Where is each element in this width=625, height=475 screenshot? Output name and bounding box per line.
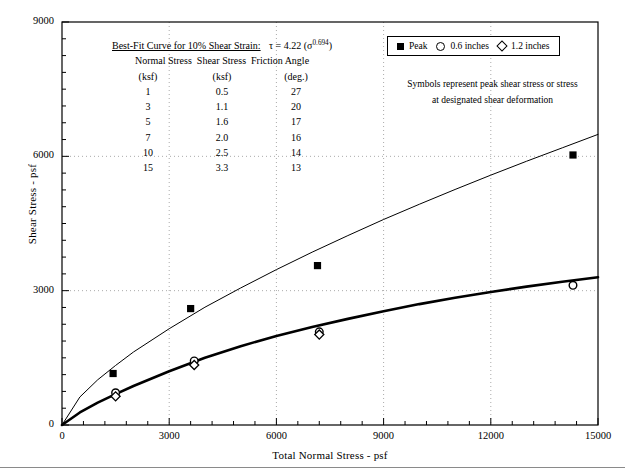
footer-divider <box>0 467 625 468</box>
y-tick-label: 9000 <box>10 15 54 26</box>
table-row: 153.313 <box>111 160 333 175</box>
legend-entry: 1.2 inches <box>498 41 550 51</box>
header-normal-stress: Normal Stress <box>135 55 192 66</box>
x-tick-label: 9000 <box>354 430 414 441</box>
table-cell: 1.1 <box>185 100 259 115</box>
table-cell: 16 <box>259 130 333 145</box>
table-cell: 14 <box>259 145 333 160</box>
table-cell: 13 <box>259 160 333 175</box>
table-cell: 1.6 <box>185 115 259 130</box>
table-cell: 0.5 <box>185 85 259 100</box>
table-cell: 2.0 <box>185 130 259 145</box>
table-row: 10.527 <box>111 85 333 100</box>
x-axis-title: Total Normal Stress - psf <box>62 449 598 461</box>
table-row: 72.016 <box>111 130 333 145</box>
y-tick-label: 0 <box>10 418 54 429</box>
table-row: 102.514 <box>111 145 333 160</box>
annotation-column-headers: Normal Stress Shear Stress Friction Angl… <box>72 56 372 67</box>
annotation-table: (ksf)(ksf)(deg.)10.52731.12051.61772.016… <box>111 69 333 175</box>
circle-marker-icon <box>436 42 445 51</box>
equation-exponent: 0.694 <box>312 39 328 47</box>
data-point-peak <box>569 151 576 158</box>
diamond-marker-icon <box>496 40 507 51</box>
table-cell: 3.3 <box>185 160 259 175</box>
table-cell: 5 <box>111 115 185 130</box>
table-cell: (ksf) <box>185 69 259 84</box>
y-tick-label: 3000 <box>10 284 54 295</box>
square-marker-icon <box>397 43 404 50</box>
legend-note: Symbols represent peak shear stress or s… <box>385 76 600 108</box>
table-row: 31.120 <box>111 100 333 115</box>
x-tick-label: 0 <box>32 430 92 441</box>
legend-entry: 0.6 inches <box>436 41 489 51</box>
table-cell: 15 <box>111 160 185 175</box>
best-fit-annotation: Best-Fit Curve for 10% Shear Strain: τ =… <box>72 40 372 176</box>
chart-legend: Peak0.6 inches1.2 inches <box>387 36 560 56</box>
designated-deformation-curve <box>62 277 598 425</box>
header-friction-angle: Friction Angle <box>251 55 309 66</box>
table-cell: 17 <box>259 115 333 130</box>
data-point-peak <box>314 262 321 269</box>
header-shear-stress: Shear Stress <box>197 55 246 66</box>
annotation-equation: τ = 4.22 (σ0.694) <box>269 40 332 51</box>
annotation-title-line: Best-Fit Curve for 10% Shear Strain: τ =… <box>72 40 372 52</box>
legend-label: 0.6 inches <box>450 41 489 51</box>
data-point-peak <box>187 305 194 312</box>
legend-note-line-1: Symbols represent peak shear stress or s… <box>385 76 600 92</box>
table-row-units: (ksf)(ksf)(deg.) <box>111 69 333 84</box>
table-cell: (ksf) <box>111 69 185 84</box>
table-cell: (deg.) <box>259 69 333 84</box>
table-cell: 2.5 <box>185 145 259 160</box>
chart-page: Shear Stress - psf Total Normal Stress -… <box>0 0 625 475</box>
legend-label: Peak <box>409 41 427 51</box>
x-tick-label: 12000 <box>461 430 521 441</box>
x-tick-label: 3000 <box>139 430 199 441</box>
data-point-peak <box>109 370 116 377</box>
equation-suffix: ) <box>329 40 332 51</box>
table-cell: 7 <box>111 130 185 145</box>
annotation-title: Best-Fit Curve for 10% Shear Strain: <box>112 40 261 51</box>
table-cell: 3 <box>111 100 185 115</box>
table-cell: 20 <box>259 100 333 115</box>
table-cell: 10 <box>111 145 185 160</box>
data-point-0-6-inches <box>569 281 577 289</box>
table-cell: 1 <box>111 85 185 100</box>
legend-note-line-2: at designated shear deformation <box>385 92 600 108</box>
x-tick-label: 15000 <box>568 430 625 441</box>
legend-entry: Peak <box>397 41 427 51</box>
legend-label: 1.2 inches <box>511 41 550 51</box>
equation-prefix: τ = 4.22 (σ <box>269 40 312 51</box>
table-row: 51.617 <box>111 115 333 130</box>
y-tick-label: 6000 <box>10 149 54 160</box>
x-tick-label: 6000 <box>246 430 306 441</box>
table-cell: 27 <box>259 85 333 100</box>
